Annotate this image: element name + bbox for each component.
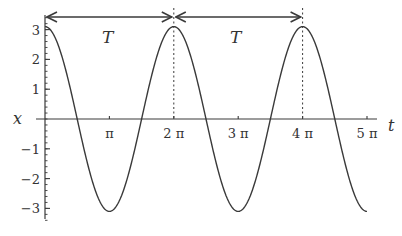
y-tick-label: 3 (32, 23, 40, 38)
y-tick-label: −2 (21, 172, 40, 187)
x-tick-label: 3 π (228, 126, 249, 141)
y-tick-label: 2 (32, 52, 40, 67)
x-tick-label: 4 π (292, 126, 313, 141)
x-axis-label: t (388, 116, 395, 135)
y-tick-label: −1 (21, 142, 40, 157)
x-axis: π2 π3 π4 π5 π (36, 116, 378, 141)
y-axis-label: x (13, 109, 22, 128)
x-tick-label: 5 π (357, 126, 378, 141)
y-tick-label: 1 (32, 82, 40, 97)
x-tick-label: π (105, 126, 114, 141)
y-tick-label: −3 (21, 201, 40, 216)
x-tick-label: 2 π (163, 126, 184, 141)
period-label-1: T (102, 27, 115, 47)
cosine-period-chart: 321−1−2−3 π2 π3 π4 π5 π x t T T (0, 0, 402, 236)
period-label-2: T (230, 27, 243, 47)
y-axis: 321−1−2−3 (21, 15, 50, 220)
